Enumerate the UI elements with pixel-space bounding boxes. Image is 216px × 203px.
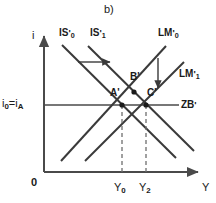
x-axis-tick-label-y0: Y0 bbox=[114, 182, 126, 195]
origin-label: 0 bbox=[31, 177, 37, 188]
y-axis-tick-label-i0-ia: i0=iA bbox=[2, 98, 23, 111]
zb-prime: ' bbox=[194, 99, 196, 110]
x-axis-tick-label-y2: Y2 bbox=[139, 182, 151, 195]
zb-base: ZB bbox=[181, 99, 194, 110]
point-c-prime-marker bbox=[143, 102, 148, 107]
lm1-sub: 1 bbox=[196, 72, 200, 81]
lm0-curve bbox=[61, 46, 166, 161]
is1-sub: 1 bbox=[102, 31, 106, 40]
lm0-sub: 0 bbox=[175, 31, 179, 40]
point-label-c-prime: C' bbox=[147, 88, 157, 98]
y2-sub: 2 bbox=[146, 186, 150, 195]
point-a-prime-marker bbox=[119, 102, 124, 107]
islm-zb-diagram: b) i Y 0 IS'0 IS'1 LM'0 LM'1 ZB' i0=iA A… bbox=[0, 0, 216, 203]
curve-label-is1: IS'1 bbox=[90, 28, 106, 39]
i0-eq: =i bbox=[9, 97, 18, 109]
figure-title: b) bbox=[104, 4, 114, 15]
point-b-prime-marker bbox=[131, 89, 136, 94]
point-label-a-prime: A' bbox=[110, 88, 120, 98]
x-axis-label: Y bbox=[202, 182, 209, 193]
ia-sub: A bbox=[18, 102, 24, 111]
y-axis-label: i bbox=[32, 30, 34, 41]
is0-sub: 0 bbox=[71, 31, 75, 40]
curve-label-lm0: LM'0 bbox=[158, 28, 179, 39]
lm1-base: LM bbox=[179, 68, 193, 79]
curve-label-is0: IS'0 bbox=[59, 28, 75, 39]
curve-label-zb: ZB' bbox=[181, 100, 197, 110]
curve-label-lm1: LM'1 bbox=[179, 69, 200, 80]
lm0-base: LM bbox=[158, 27, 172, 38]
y0-sub: 0 bbox=[121, 186, 125, 195]
point-label-b-prime: B' bbox=[130, 72, 140, 82]
